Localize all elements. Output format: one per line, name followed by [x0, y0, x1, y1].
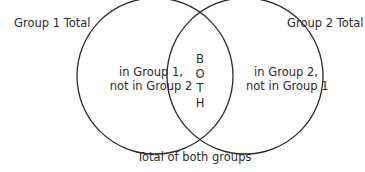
group1-total-label: Group 1 Total: [14, 16, 91, 30]
both-letter-h: H: [196, 96, 205, 111]
only-group2-line2: not in Group 1: [246, 79, 326, 93]
both-letter-t: T: [196, 81, 203, 96]
both-label: B O T H: [192, 52, 208, 110]
both-letter-b: B: [196, 52, 204, 67]
only-group2-label: in Group 2, not in Group 1: [246, 65, 326, 93]
only-group1-line1: in Group 1,: [96, 65, 206, 79]
only-group1-label: in Group 1, not in Group 2: [96, 65, 206, 93]
only-group1-line2: not in Group 2: [96, 79, 206, 93]
only-group2-line1: in Group 2,: [246, 65, 326, 79]
both-letter-o: O: [195, 67, 204, 82]
total-both-label: Total of both groups: [137, 150, 251, 164]
group2-total-label: Group 2 Total: [287, 16, 364, 30]
